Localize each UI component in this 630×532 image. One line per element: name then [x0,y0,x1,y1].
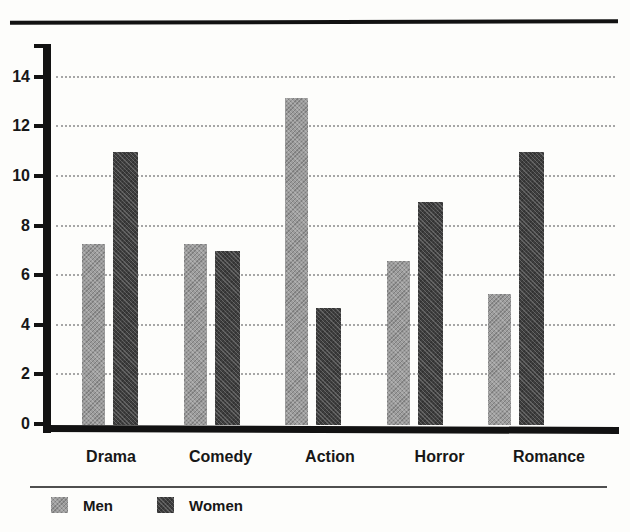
legend-swatch-men [51,497,68,513]
x-axis-line [43,425,619,434]
bar-women-drama [113,152,138,425]
y-tick-label-14: 14 [0,69,30,85]
bar-men-action [285,98,308,425]
y-tick-label-4: 4 [0,317,30,333]
bar-women-romance [519,152,544,425]
y-tick-6 [34,273,44,277]
x-label-romance: Romance [499,448,599,466]
legend-label-men: Men [83,497,113,514]
y-tick-0 [34,422,44,426]
y-tick-10 [34,174,44,178]
y-tick-14 [34,75,44,79]
y-tick-8 [34,224,44,228]
x-label-comedy: Comedy [171,448,271,466]
x-label-horror: Horror [390,448,490,466]
scanned-bar-chart-page: Favorite Movie Genres 02468101214DramaCo… [0,0,630,532]
y-tick-label-12: 12 [0,118,30,134]
bar-women-comedy [215,251,240,425]
bar-women-horror [418,202,443,425]
y-axis-top-cap [34,44,44,48]
y-tick-label-6: 6 [0,267,30,283]
x-label-action: Action [280,448,380,466]
bar-men-romance [488,294,511,425]
legend-divider-rule [30,486,607,488]
plot-area: 02468101214DramaComedyActionHorrorRomanc… [0,0,630,532]
legend-swatch-women [157,497,174,513]
bar-men-comedy [184,244,207,425]
x-label-drama: Drama [61,448,161,466]
y-tick-2 [34,372,44,376]
gridline-y12 [56,125,615,127]
y-tick-label-0: 0 [0,416,30,432]
y-tick-label-2: 2 [0,366,30,382]
bar-men-drama [82,244,105,425]
y-tick-label-8: 8 [0,218,30,234]
legend: MenWomen [0,496,630,520]
y-axis-line [43,44,51,433]
gridline-y14 [56,76,615,78]
y-tick-4 [34,323,44,327]
bar-women-action [316,308,341,425]
bar-men-horror [387,261,410,425]
legend-label-women: Women [189,497,243,514]
y-tick-12 [34,124,44,128]
y-tick-label-10: 10 [0,168,30,184]
